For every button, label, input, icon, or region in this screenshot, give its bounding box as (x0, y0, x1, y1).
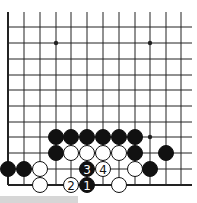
caption-bar (0, 196, 78, 203)
white-stone (128, 162, 143, 177)
white-stone (96, 146, 111, 161)
white-stone (33, 178, 48, 193)
white-stone (33, 162, 48, 177)
stones: 3421 (1, 130, 174, 193)
black-stone (112, 130, 127, 145)
black-stone: 3 (80, 162, 95, 177)
star-point-icon (54, 41, 58, 45)
black-stone (96, 130, 111, 145)
black-stone (143, 162, 158, 177)
go-board-diagram: 3421 (0, 0, 197, 203)
black-stone (128, 146, 143, 161)
move-number-label: 2 (67, 179, 75, 193)
white-stone: 4 (96, 162, 111, 177)
black-stone (49, 130, 64, 145)
move-number-label: 4 (99, 163, 107, 177)
black-stone: 1 (80, 178, 95, 193)
black-stone (159, 146, 174, 161)
black-stone (17, 162, 32, 177)
black-stone (1, 162, 16, 177)
star-point-icon (148, 135, 152, 139)
white-stone (80, 146, 95, 161)
move-number-label: 1 (83, 179, 91, 193)
black-stone (64, 130, 79, 145)
white-stone (112, 146, 127, 161)
white-stone (64, 146, 79, 161)
black-stone (49, 146, 64, 161)
move-number-label: 3 (83, 163, 91, 177)
star-point-icon (148, 41, 152, 45)
white-stone: 2 (64, 178, 79, 193)
black-stone (128, 130, 143, 145)
black-stone (80, 130, 95, 145)
white-stone (112, 178, 127, 193)
